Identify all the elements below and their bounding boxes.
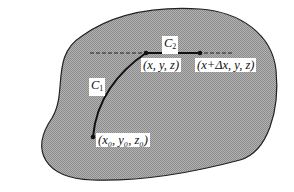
label-c2-sub: 2: [172, 42, 176, 51]
label-c1: C1: [89, 78, 105, 96]
point-mid: [144, 51, 149, 56]
point-start: [91, 135, 96, 140]
label-point-end: (x+Δx, y, z): [195, 58, 256, 72]
label-c1-sub: 1: [99, 84, 103, 93]
region-blob: [42, 8, 277, 180]
label-c2: C2: [162, 36, 178, 54]
label-point-mid: (x, y, z): [141, 58, 181, 72]
diagram-canvas: C2 C1 (x, y, z) (x+Δx, y, z) (x₀, y₀, z₀…: [0, 0, 294, 192]
point-end: [198, 51, 203, 56]
diagram-svg: [0, 0, 294, 192]
label-point-start: (x₀, y₀, z₀): [96, 133, 150, 147]
